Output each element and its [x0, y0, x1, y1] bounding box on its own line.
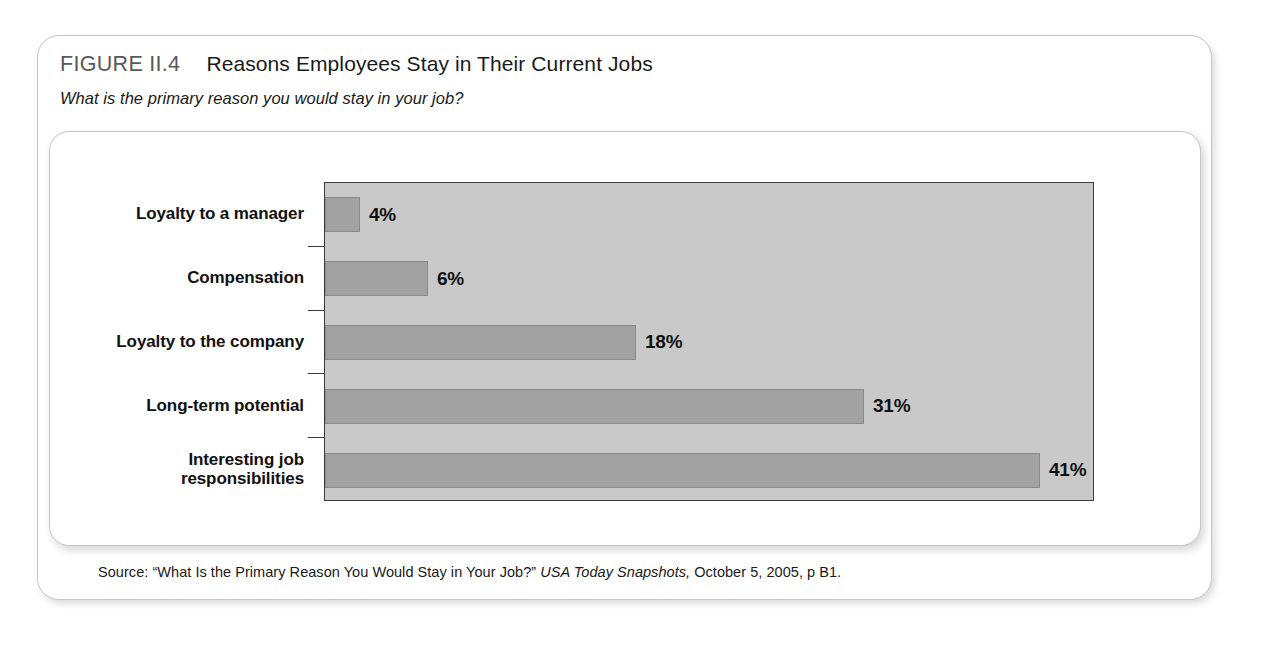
chart-panel: Loyalty to a managerCompensationLoyalty …: [49, 131, 1201, 546]
bar-row: 41%: [325, 438, 1093, 502]
bar: [325, 261, 428, 296]
bar-chart: Loyalty to a managerCompensationLoyalty …: [50, 132, 1202, 547]
figure-subtitle: What is the primary reason you would sta…: [60, 89, 1180, 108]
category-label: Long-term potential: [74, 396, 304, 415]
axis-tick: [308, 246, 324, 247]
category-label: Loyalty to the company: [74, 332, 304, 351]
category-label: Interesting job responsibilities: [74, 450, 304, 488]
bar: [325, 197, 360, 232]
bar-row: 4%: [325, 183, 1093, 247]
category-label: Compensation: [74, 268, 304, 287]
axis-tick: [308, 373, 324, 374]
axis-tick: [308, 437, 324, 438]
category-axis-labels: Loyalty to a managerCompensationLoyalty …: [74, 182, 314, 501]
bar: [325, 453, 1040, 488]
figure-number: FIGURE II.4: [60, 52, 180, 77]
figure-title-row: FIGURE II.4 Reasons Employees Stay in Th…: [60, 52, 1180, 77]
bar-row: 31%: [325, 374, 1093, 438]
bar: [325, 325, 636, 360]
bar-row: 6%: [325, 247, 1093, 311]
source-note: Source: “What Is the Primary Reason You …: [98, 564, 841, 580]
figure-title: Reasons Employees Stay in Their Current …: [206, 52, 652, 76]
figure-card: FIGURE II.4 Reasons Employees Stay in Th…: [37, 35, 1212, 600]
category-label: Loyalty to a manager: [74, 204, 304, 223]
bar-row: 18%: [325, 311, 1093, 375]
source-publication: USA Today Snapshots,: [540, 564, 690, 580]
bar-value-label: 4%: [369, 204, 396, 226]
bar-value-label: 18%: [645, 331, 682, 353]
plot-area: 4%6%18%31%41%: [324, 182, 1094, 501]
source-prefix: Source: “What Is the Primary Reason You …: [98, 564, 540, 580]
bar-value-label: 6%: [437, 268, 464, 290]
figure-header: FIGURE II.4 Reasons Employees Stay in Th…: [60, 52, 1180, 108]
bar-series: 4%6%18%31%41%: [325, 183, 1093, 500]
source-suffix: October 5, 2005, p B1.: [690, 564, 841, 580]
figure-page: FIGURE II.4 Reasons Employees Stay in Th…: [0, 0, 1261, 645]
bar-value-label: 31%: [873, 395, 910, 417]
bar: [325, 389, 864, 424]
bar-value-label: 41%: [1049, 459, 1086, 481]
axis-tick: [308, 310, 324, 311]
